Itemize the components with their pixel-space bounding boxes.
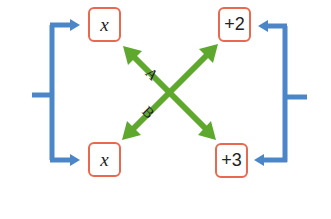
left-bracket <box>32 25 72 160</box>
left-bracket-bottom-arrowhead <box>70 154 80 166</box>
box-bottom-right: +3 <box>215 143 248 178</box>
box-top-right: +2 <box>218 7 251 42</box>
right-bracket-bottom-arrowhead <box>254 154 264 166</box>
box-bottom-left: x <box>88 142 121 177</box>
right-bracket-top-arrowhead <box>258 20 268 32</box>
box-top-left: x <box>88 7 121 42</box>
right-bracket <box>262 26 307 162</box>
left-bracket-top-arrowhead <box>70 19 80 31</box>
diagram-canvas <box>0 0 331 219</box>
